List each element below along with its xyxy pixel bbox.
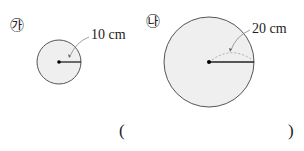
radius-label-na: 20 cm xyxy=(252,21,287,37)
answer-open-paren: ( xyxy=(119,121,125,141)
answer-close-paren: ) xyxy=(288,121,294,141)
circle-na xyxy=(164,17,254,107)
circle-ga xyxy=(37,37,89,84)
figure-marker-ga: ㉮ xyxy=(10,14,24,34)
radius-label-ga: 10 cm xyxy=(91,27,126,43)
figure-marker-na: ㉯ xyxy=(146,10,160,30)
